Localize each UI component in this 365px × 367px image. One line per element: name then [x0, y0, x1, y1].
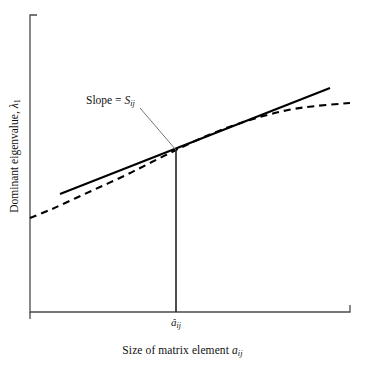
y-axis-label: Dominant eigenvalue, λ1 — [8, 99, 22, 213]
axis-frame-path — [30, 15, 350, 312]
x-axis-label-subscript: ij — [238, 349, 243, 358]
x-axis-label: Size of matrix element aij — [0, 344, 365, 358]
slope-annotation-label: Slope = Sij — [86, 94, 135, 108]
slope-annotation-prefix: Slope = — [86, 94, 124, 106]
figure-container: Dominant eigenvalue, λ1 âij Size of matr… — [0, 0, 365, 367]
y-axis-label-subscript: 1 — [13, 99, 22, 103]
slope-annotation-subscript: ij — [130, 99, 135, 108]
x-axis-label-prefix: Size of matrix element — [122, 344, 232, 356]
dashed-eigenvalue-curve — [30, 103, 350, 218]
chart-plot-area — [0, 0, 365, 367]
y-axis-label-symbol: λ — [8, 103, 20, 108]
y-axis-label-prefix: Dominant eigenvalue, — [8, 108, 20, 212]
x-axis-tick-label: âij — [154, 316, 198, 330]
annotation-leader-line — [140, 108, 176, 150]
axis-lines — [30, 15, 350, 319]
x-axis-tick-subscript: ij — [177, 321, 181, 330]
y-axis-label-wrapper: Dominant eigenvalue, λ1 — [0, 0, 30, 312]
